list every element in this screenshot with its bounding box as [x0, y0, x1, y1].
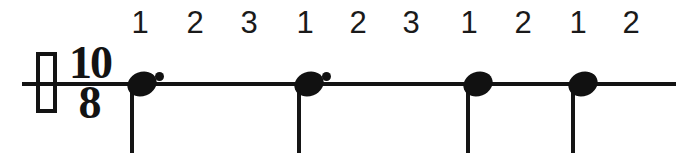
count-number: 1 [563, 6, 593, 39]
augmentation-dot [155, 72, 164, 81]
count-number: 1 [290, 6, 320, 39]
music-notation-figure: 1231231212 10 8 [0, 0, 678, 155]
count-number: 3 [234, 6, 264, 39]
count-number: 2 [616, 6, 646, 39]
count-number: 1 [125, 6, 155, 39]
count-number: 1 [454, 6, 484, 39]
time-signature-denominator: 8 [62, 80, 118, 126]
count-number: 2 [343, 6, 373, 39]
count-number: 2 [180, 6, 210, 39]
augmentation-dot [322, 72, 331, 81]
count-number: 2 [508, 6, 538, 39]
count-number: 3 [396, 6, 426, 39]
time-signature: 10 8 [62, 42, 118, 122]
clef-box-icon [36, 52, 57, 113]
